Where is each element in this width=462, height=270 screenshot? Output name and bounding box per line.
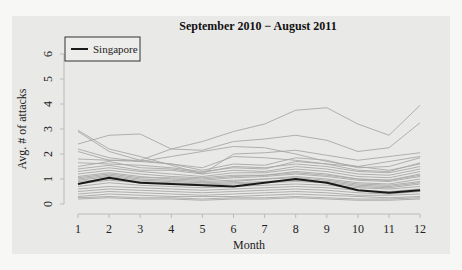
y-tick-label: 6 <box>41 51 55 57</box>
y-tick-label: 2 <box>41 151 55 157</box>
x-tick-label: 11 <box>383 222 395 236</box>
x-tick-label: 10 <box>352 222 364 236</box>
background-series-line <box>78 105 420 160</box>
y-axis: 0123456 <box>41 51 64 207</box>
line-chart: September 2010 − August 2011 0123456 Avg… <box>0 0 462 270</box>
x-tick-label: 3 <box>137 222 143 236</box>
y-tick-label: 5 <box>41 76 55 82</box>
x-tick-label: 7 <box>262 222 268 236</box>
y-axis-title: Avg. # of attacks <box>15 88 29 169</box>
y-tick-label: 0 <box>41 201 55 207</box>
x-tick-label: 8 <box>293 222 299 236</box>
x-axis-title: Month <box>233 238 265 252</box>
x-tick-label: 6 <box>231 222 237 236</box>
x-axis: 123456789101112 <box>75 214 426 236</box>
x-tick-label: 1 <box>75 222 81 236</box>
x-tick-label: 9 <box>324 222 330 236</box>
y-tick-label: 1 <box>41 176 55 182</box>
legend-label-singapore: Singapore <box>93 43 138 55</box>
x-tick-label: 2 <box>106 222 112 236</box>
background-series-group <box>78 105 420 200</box>
x-tick-label: 12 <box>414 222 426 236</box>
x-tick-label: 4 <box>168 222 174 236</box>
y-tick-label: 3 <box>41 126 55 132</box>
legend: Singapore <box>65 37 140 61</box>
x-tick-label: 5 <box>199 222 205 236</box>
chart-title: September 2010 − August 2011 <box>179 19 336 33</box>
y-tick-label: 4 <box>41 101 55 107</box>
